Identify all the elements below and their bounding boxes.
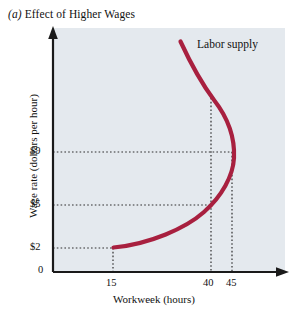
x-tick-label-45: 45 [226,277,237,288]
y-axis-arrowhead [48,26,58,39]
labor-supply-curve-label: Labor supply [197,38,258,50]
x-tick-label-40: 40 [203,277,214,288]
x-axis-arrowhead [276,267,289,277]
x-axis-title: Workweek (hours) [0,293,308,305]
y-axis-title: Wage rate (dollars per hour) [27,51,39,261]
figure-panel-a: (a) Effect of Higher Wages $9 $5 $2 0 15… [0,0,308,315]
labor-supply-curve [114,42,235,248]
y-tick-label-0: 0 [38,264,43,275]
chart-canvas [0,0,308,315]
x-tick-label-15: 15 [106,277,117,288]
